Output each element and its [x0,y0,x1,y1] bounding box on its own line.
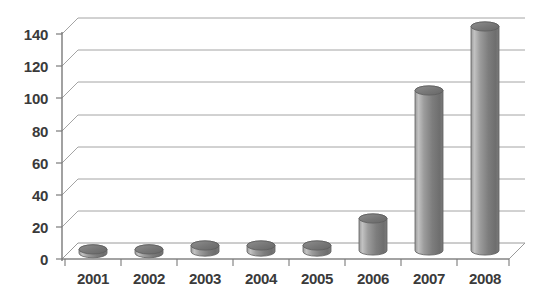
x-tick-label-2005: 2005 [287,270,347,287]
x-axis [62,259,509,266]
bar-2003[interactable] [191,241,219,256]
y-tick-label-80: 80 [4,123,48,140]
bar-2004[interactable] [247,241,275,256]
bar-2001[interactable] [79,245,107,258]
bar-2006[interactable] [359,214,387,255]
bar-2005[interactable] [303,241,331,256]
plot-floor [62,243,525,259]
bar-chart: 0 20 40 60 80 100 120 140 2001 2002 2003… [0,0,542,293]
bar-2007[interactable] [415,86,443,255]
y-tick-label-100: 100 [4,90,48,107]
x-tick-label-2006: 2006 [343,270,403,287]
bar-2002[interactable] [135,245,163,258]
gridlines [62,18,525,227]
x-tick-label-2008: 2008 [455,270,515,287]
y-tick-label-20: 20 [4,219,48,236]
x-tick-label-2003: 2003 [175,270,235,287]
x-tick-label-2001: 2001 [63,270,123,287]
chart-canvas [0,0,542,293]
y-tick-label-0: 0 [4,251,48,268]
y-tick-label-40: 40 [4,187,48,204]
x-tick-label-2007: 2007 [399,270,459,287]
bar-2008[interactable] [471,22,499,255]
x-tick-label-2004: 2004 [231,270,291,287]
y-tick-label-60: 60 [4,155,48,172]
x-tick-label-2002: 2002 [119,270,179,287]
y-axis [56,32,62,261]
y-tick-label-140: 140 [4,26,48,43]
y-tick-label-120: 120 [4,58,48,75]
